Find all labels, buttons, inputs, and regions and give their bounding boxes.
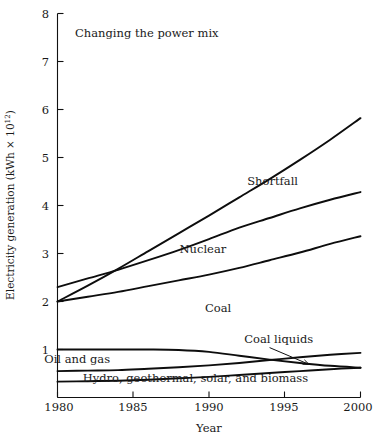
chart-title: Changing the power mix [75, 26, 219, 40]
series-label-oil-and-gas: Oil and gas [44, 352, 110, 366]
y-tick-label-6: 6 [42, 103, 49, 117]
x-tick-label-1985: 1985 [118, 400, 147, 414]
y-tick-label-4: 4 [42, 199, 49, 213]
x-tick-label-1990: 1990 [194, 400, 223, 414]
y-axis-title-exponent: 12 [3, 114, 12, 123]
svg-text:Electricity generation (kWh ×: Electricity generation (kWh × 1012) [3, 110, 16, 300]
x-axis-ticks [58, 392, 361, 398]
series-label-hydro-geothermal-solar-and-biomass: Hydro, geothermal, solar, and biomass [83, 371, 309, 385]
y-tick-label-7: 7 [42, 55, 49, 69]
y-tick-label-8: 8 [42, 7, 49, 21]
y-axis-title: Electricity generation (kWh × 1012) [3, 110, 16, 300]
line-chart-svg: 8 7 6 5 4 3 2 1 1980 1985 1990 1995 2000… [0, 0, 380, 438]
series-label-coal: Coal [205, 301, 232, 315]
series-label-coal-liquids: Coal liquids [244, 332, 313, 346]
series-label-nuclear: Nuclear [180, 242, 227, 256]
y-tick-label-3: 3 [42, 247, 49, 261]
chart-figure: 8 7 6 5 4 3 2 1 1980 1985 1990 1995 2000… [0, 0, 380, 438]
x-tick-label-1995: 1995 [269, 400, 298, 414]
y-tick-label-5: 5 [42, 151, 49, 165]
y-tick-label-2: 2 [42, 295, 49, 309]
x-axis-title: Year [195, 421, 222, 435]
y-axis-title-tail: ) [4, 110, 16, 114]
series-line-nuclear [58, 192, 361, 287]
y-axis-title-main: Electricity generation (kWh × 10 [4, 123, 16, 299]
x-tick-label-1980: 1980 [44, 400, 73, 414]
x-tick-label-2000: 2000 [343, 400, 372, 414]
series-label-shortfall: Shortfall [247, 174, 298, 188]
